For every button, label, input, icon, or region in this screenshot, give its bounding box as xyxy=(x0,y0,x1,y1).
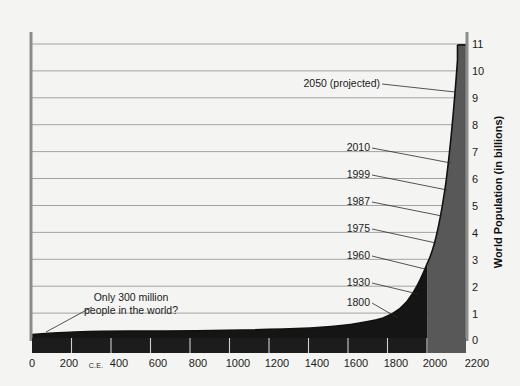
callout-1987: 1987 xyxy=(347,195,371,207)
x-tick-1000: 1000 xyxy=(226,357,250,369)
y-tick-3: 3 xyxy=(472,254,478,266)
x-tick-400: 400 xyxy=(110,357,128,369)
callout-2010: 2010 xyxy=(347,141,371,153)
x-tick-200: 200 xyxy=(60,357,78,369)
world-population-chart: 0 200 C.E. 400 600 800 1000 1200 1400 16… xyxy=(0,0,520,386)
x-tick-2000: 2000 xyxy=(423,357,447,369)
y-tick-5: 5 xyxy=(472,200,478,212)
y-tick-6: 6 xyxy=(472,173,478,185)
callout-1930: 1930 xyxy=(347,276,371,288)
x-tick-0: 0 xyxy=(29,357,35,369)
y-tick-1: 1 xyxy=(472,308,478,320)
chart-stage: 0 200 C.E. 400 600 800 1000 1200 1400 16… xyxy=(0,0,520,386)
callout-1960: 1960 xyxy=(347,249,371,261)
x-tick-1400: 1400 xyxy=(305,357,329,369)
y-tick-10: 10 xyxy=(472,65,484,77)
x-tick-2200: 2200 xyxy=(465,357,489,369)
y-axis-title: World Population (in billions) xyxy=(492,115,504,268)
y-tick-7: 7 xyxy=(472,146,478,158)
y-tick-4: 4 xyxy=(472,227,478,239)
x-tick-1200: 1200 xyxy=(265,357,289,369)
y-tick-8: 8 xyxy=(472,119,478,131)
y-tick-9: 9 xyxy=(472,92,478,104)
y-tick-2: 2 xyxy=(472,281,478,293)
x-era-label: C.E. xyxy=(89,362,103,369)
x-tick-1600: 1600 xyxy=(344,357,368,369)
x-tick-600: 600 xyxy=(149,357,167,369)
callout-300-million-line1: Only 300 million xyxy=(94,291,169,303)
y-tick-11: 11 xyxy=(472,38,483,50)
callout-1975: 1975 xyxy=(347,222,371,234)
x-tick-1800: 1800 xyxy=(384,357,408,369)
callout-1800: 1800 xyxy=(347,296,371,308)
callout-300-million-line2: people in the world? xyxy=(84,304,178,316)
x-tick-800: 800 xyxy=(189,357,207,369)
callout-1999: 1999 xyxy=(347,168,371,180)
x-axis-bar-projected xyxy=(428,338,466,353)
callout-2050: 2050 (projected) xyxy=(304,77,380,89)
y-tick-0: 0 xyxy=(472,334,478,346)
